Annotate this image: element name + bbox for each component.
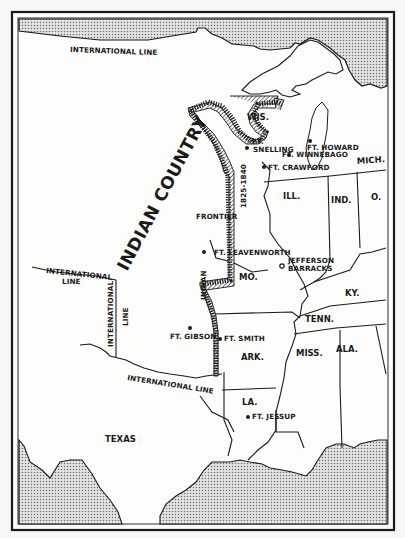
fort-snelling-marker: [245, 146, 249, 150]
label-intl-vert-1: INTERNATIONAL: [106, 280, 115, 347]
label-fort-winnebago: FT. WINNEBAGO: [282, 150, 348, 159]
fort-leavenworth-marker: [202, 250, 206, 254]
frontier-map: INTERNATIONAL LINE INDIAN COUNTRY INTERN…: [0, 0, 405, 538]
jefferson-barracks-marker: [280, 264, 284, 268]
label-miss: MISS.: [296, 348, 323, 358]
label-intl-vert-2: LINE: [121, 307, 130, 326]
fort-gibson-marker: [188, 326, 192, 330]
label-fort-smith: FT. SMITH: [224, 334, 265, 343]
label-ill: ILL.: [283, 191, 300, 201]
label-jefferson-barracks-2: BARRACKS: [288, 264, 333, 273]
label-la: LA.: [242, 397, 257, 407]
label-ind: IND.: [331, 195, 352, 205]
label-texas: TEXAS: [105, 434, 136, 444]
label-mo: MO.: [239, 272, 258, 282]
fort-crawford-marker: [262, 165, 266, 169]
label-fort-gibson: FT. GIBSON: [170, 332, 216, 341]
fort-jessup-marker: [246, 415, 250, 419]
label-ark: ARK.: [241, 352, 264, 362]
label-frontier: FRONTIER: [196, 212, 238, 221]
label-indian: INDIAN: [199, 270, 208, 300]
label-fort-leavenworth: FT. LEAVENWORTH: [214, 248, 291, 257]
label-fort-jessup: FT. JESSUP: [252, 412, 296, 421]
label-tenn: TENN.: [305, 314, 334, 324]
label-ohio: O.: [371, 192, 381, 202]
label-frontier-years: 1825-1840: [239, 164, 248, 208]
label-ky: KY.: [345, 288, 360, 298]
fort-smith-marker: [218, 337, 222, 341]
label-ala: ALA.: [336, 344, 358, 354]
label-fort-crawford: FT. CRAWFORD: [268, 163, 330, 172]
label-intl-west-2: LINE: [62, 277, 81, 286]
label-wis: WIS.: [247, 112, 269, 122]
label-mich: MICH.: [356, 154, 385, 166]
